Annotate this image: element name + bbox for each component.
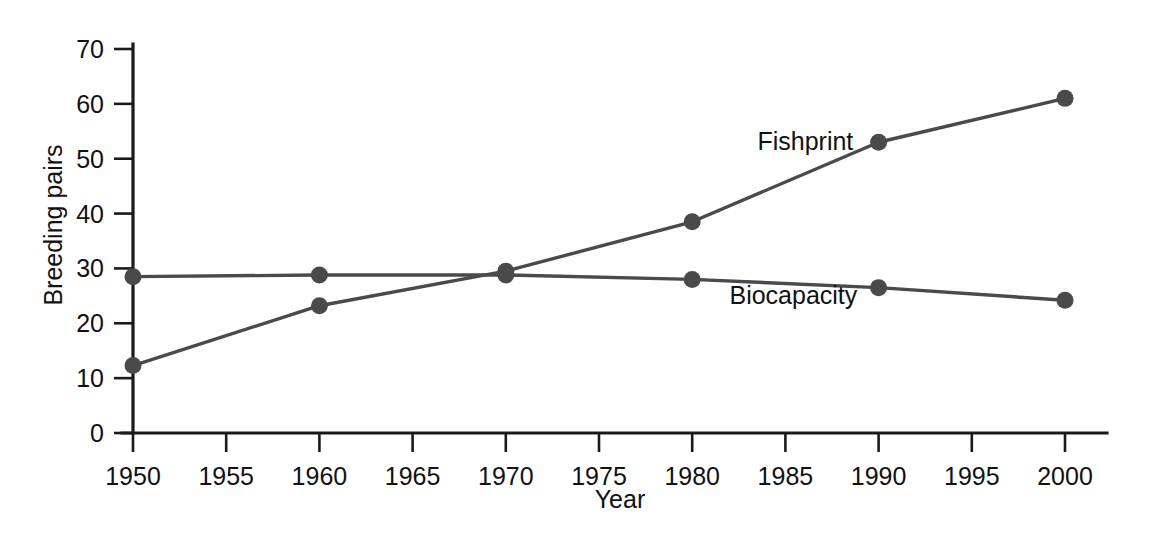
data-point-biocapacity: [1057, 292, 1074, 309]
data-point-fishprint: [1057, 90, 1074, 107]
x-axis-ticks: 1950195519601965197019751980198519901995…: [105, 433, 1093, 490]
series-label-biocapacity: Biocapacity: [729, 281, 857, 309]
series-annotations-group: FishprintBiocapacity: [729, 127, 857, 309]
data-point-fishprint: [870, 134, 887, 151]
y-tick-label: 30: [76, 254, 104, 282]
series-line-biocapacity: [133, 275, 1065, 300]
x-tick-label: 1955: [198, 462, 254, 490]
y-tick-label: 50: [76, 145, 104, 173]
series-lines-group: [133, 98, 1065, 365]
data-point-biocapacity: [870, 279, 887, 296]
y-tick-label: 20: [76, 309, 104, 337]
data-point-biocapacity: [497, 267, 514, 284]
x-tick-label: 1995: [944, 462, 1000, 490]
y-tick-label: 40: [76, 200, 104, 228]
x-tick-label: 1950: [105, 462, 161, 490]
data-point-biocapacity: [311, 267, 328, 284]
data-point-fishprint: [684, 213, 701, 230]
x-tick-label: 1965: [385, 462, 441, 490]
line-chart: 010203040506070 195019551960196519701975…: [0, 0, 1157, 547]
data-point-biocapacity: [684, 271, 701, 288]
x-tick-label: 1990: [851, 462, 907, 490]
data-point-fishprint: [125, 357, 142, 374]
x-tick-label: 1980: [664, 462, 720, 490]
series-line-fishprint: [133, 98, 1065, 365]
x-tick-label: 2000: [1037, 462, 1093, 490]
data-point-biocapacity: [125, 268, 142, 285]
x-axis-title: Year: [595, 485, 646, 513]
x-tick-label: 1970: [478, 462, 534, 490]
y-tick-label: 10: [76, 364, 104, 392]
y-axis-ticks: 010203040506070: [76, 35, 133, 447]
chart-container: 010203040506070 195019551960196519701975…: [0, 0, 1157, 547]
y-tick-label: 0: [90, 419, 104, 447]
y-tick-label: 70: [76, 35, 104, 63]
x-tick-label: 1985: [758, 462, 814, 490]
series-label-fishprint: Fishprint: [757, 127, 853, 155]
data-point-fishprint: [311, 297, 328, 314]
y-axis-title: Breeding pairs: [39, 144, 67, 305]
x-tick-label: 1960: [292, 462, 348, 490]
y-tick-label: 60: [76, 90, 104, 118]
series-markers-group: [125, 90, 1074, 374]
